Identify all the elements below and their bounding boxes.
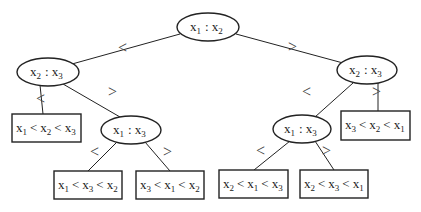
edge-label-RL-RLR: > bbox=[322, 142, 331, 159]
edge-label-root-R: > bbox=[288, 38, 297, 55]
edge-label-L-LL: < bbox=[36, 90, 45, 107]
edge-label-L-LR: > bbox=[108, 83, 117, 100]
edge-label-LR-LRR: > bbox=[163, 143, 172, 160]
leaf-x1-x2-x3: x1<x2<x3 bbox=[12, 114, 81, 142]
edge-labels: < > < > < > < > < > bbox=[36, 38, 381, 160]
leaf-x2-x3-x1: x2<x3<x1 bbox=[300, 170, 368, 198]
node-RL-x1-x3: x1:x3 bbox=[273, 115, 331, 143]
leaf-x3-x1-x2: x3<x1<x2 bbox=[136, 171, 204, 199]
leaf-x2-x1-x3: x2<x1<x3 bbox=[219, 170, 288, 198]
decision-tree-diagram: < > < > < > < > < > x1:x2 x2:x3 x2:x3 x1… bbox=[0, 0, 421, 212]
node-L-x2-x3: x2:x3 bbox=[17, 58, 79, 86]
leaf-x3-x2-x1: x3<x2<x1 bbox=[341, 111, 410, 140]
svg-text:x1:x2: x1:x2 bbox=[190, 19, 223, 36]
edge-label-LR-LRL: < bbox=[90, 143, 99, 160]
node-R-x2-x3: x2:x3 bbox=[337, 56, 397, 84]
leaf-x1-x3-x2: x1<x3<x2 bbox=[54, 171, 122, 199]
edge-label-R-RR: > bbox=[372, 83, 381, 100]
edge-label-RL-RLL: < bbox=[256, 142, 265, 159]
node-root-x1-x2: x1:x2 bbox=[177, 13, 239, 41]
edge-label-root-L: < bbox=[118, 39, 127, 56]
node-LR-x1-x3: x1:x3 bbox=[101, 116, 161, 144]
edge-label-R-RL: < bbox=[302, 83, 311, 100]
